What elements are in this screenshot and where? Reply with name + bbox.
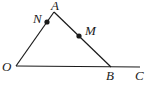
point-m-dot [76,33,81,38]
label-n: N [32,11,43,26]
label-c: C [135,68,144,83]
ray-oc [16,66,140,67]
label-m: M [84,23,97,38]
segment-ab [54,12,111,67]
diagram-canvas: A N M O B C [0,0,146,85]
label-o: O [2,59,12,74]
label-a: A [50,0,59,13]
label-b: B [106,68,114,83]
point-n-dot [44,19,49,24]
geometry-diagram: A N M O B C [0,0,146,85]
